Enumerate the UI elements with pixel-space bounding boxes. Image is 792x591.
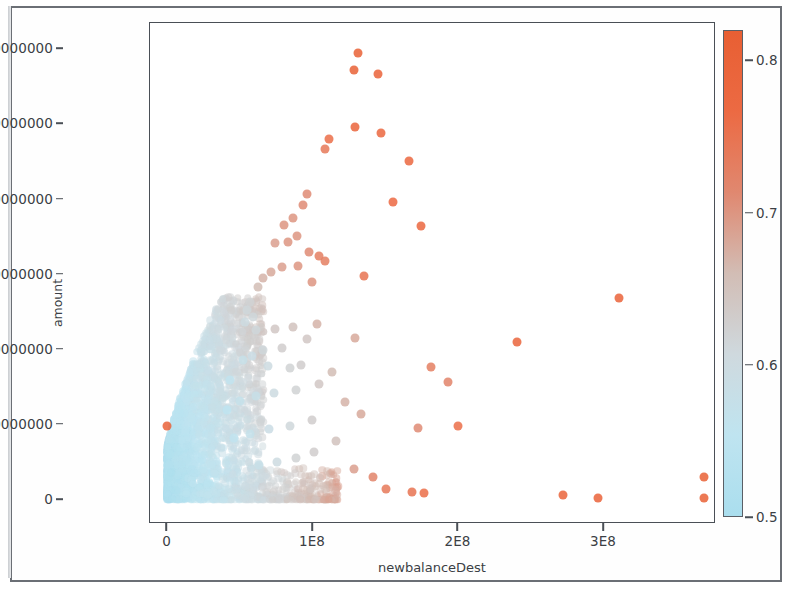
y-tick-mark <box>56 348 63 350</box>
scatter-point <box>239 495 247 503</box>
scatter-point <box>332 487 340 495</box>
scanned-page-frame: 0100000002000000030000000400000005000000… <box>10 6 782 582</box>
scatter-point <box>193 382 201 390</box>
scatter-point <box>208 444 216 452</box>
scatter-point <box>164 443 172 451</box>
scatter-point <box>281 469 289 477</box>
colorbar-tick-mark <box>745 516 753 518</box>
scatter-point <box>174 472 182 480</box>
colorbar-gradient <box>724 31 742 516</box>
y-tick-label: 0 <box>44 491 53 507</box>
colorbar-tick-label: 0.7 <box>756 205 777 221</box>
scatter-point <box>220 308 228 316</box>
y-tick-label: 30000000 <box>0 266 53 282</box>
scatter-point <box>190 469 198 477</box>
scatter-point <box>374 70 383 79</box>
scatter-point <box>260 473 268 481</box>
scatter-point <box>244 447 252 455</box>
colorbar-tick-label: 0.5 <box>756 509 777 525</box>
scatter-point <box>285 363 294 372</box>
scatter-point <box>278 344 287 353</box>
y-tick-label: 10000000 <box>0 416 53 432</box>
scatter-point <box>222 460 230 468</box>
scatter-point <box>259 345 268 354</box>
y-tick-mark <box>56 498 63 500</box>
scatter-point <box>700 493 709 502</box>
scatter-point <box>241 437 249 445</box>
scatter-point <box>559 490 568 499</box>
scatter-points-layer <box>150 23 714 522</box>
scatter-point <box>236 396 245 405</box>
scatter-point <box>207 460 215 468</box>
x-axis-label: newbalanceDest <box>378 560 486 575</box>
scatter-point <box>311 496 319 504</box>
x-tick-mark <box>311 523 313 531</box>
scatter-point <box>271 239 280 248</box>
scatter-point <box>186 368 194 376</box>
scatter-point <box>176 417 184 425</box>
scatter-point <box>215 426 223 434</box>
scatter-point <box>307 416 316 425</box>
scatter-point <box>368 473 377 482</box>
scatter-point <box>213 490 221 498</box>
scatter-point <box>183 490 191 498</box>
scatter-point <box>163 421 172 430</box>
scatter-point <box>230 434 239 443</box>
scatter-point <box>291 453 300 462</box>
scatter-point <box>284 495 292 503</box>
scatter-point <box>223 405 232 414</box>
y-tick-mark <box>56 198 63 200</box>
scatter-point <box>263 362 272 371</box>
scatter-point <box>254 451 262 459</box>
scatter-point <box>349 465 358 474</box>
scatter-point <box>303 190 312 199</box>
scatter-point <box>244 415 252 423</box>
scatter-point <box>512 338 521 347</box>
scatter-point <box>259 381 267 389</box>
x-tick-mark <box>602 523 604 531</box>
scatter-point <box>340 398 349 407</box>
scatter-point <box>265 424 274 433</box>
scatter-point <box>426 363 435 372</box>
scatter-point <box>407 487 416 496</box>
scatter-point <box>223 425 231 433</box>
scatter-point <box>199 402 207 410</box>
scatter-point <box>242 482 250 490</box>
scatter-point <box>217 316 225 324</box>
scatter-point <box>332 437 341 446</box>
scatter-point <box>351 334 360 343</box>
scatter-point <box>249 313 258 322</box>
x-tick-mark <box>166 523 168 531</box>
scatter-point <box>284 238 293 247</box>
scatter-point <box>203 492 211 500</box>
scatter-point <box>209 404 217 412</box>
scatter-point <box>381 485 390 494</box>
x-tick-mark <box>457 523 459 531</box>
scatter-point <box>260 354 268 362</box>
scatter-point <box>207 382 215 390</box>
scatter-point <box>297 360 306 369</box>
scatter-point <box>253 282 262 291</box>
scatter-point <box>242 467 250 475</box>
scatter-point <box>413 423 422 432</box>
scatter-point <box>206 336 214 344</box>
scatter-point <box>197 347 205 355</box>
scatter-point <box>228 307 236 315</box>
scatter-point <box>190 390 198 398</box>
y-tick-mark <box>56 273 63 275</box>
scatter-point <box>311 470 319 478</box>
scatter-point <box>416 221 425 230</box>
scatter-point <box>359 272 368 281</box>
scatter-point <box>231 361 239 369</box>
scatter-point <box>201 451 209 459</box>
scatter-point <box>226 413 234 421</box>
scatter-point <box>230 444 238 452</box>
scatter-point <box>288 323 297 332</box>
scatter-point <box>189 480 197 488</box>
scatter-point <box>313 320 322 329</box>
colorbar-tick-mark <box>745 364 753 366</box>
scatter-point <box>594 494 603 503</box>
scatter-point <box>354 49 363 58</box>
scatter-point <box>227 319 235 327</box>
scatter-point <box>404 157 413 166</box>
